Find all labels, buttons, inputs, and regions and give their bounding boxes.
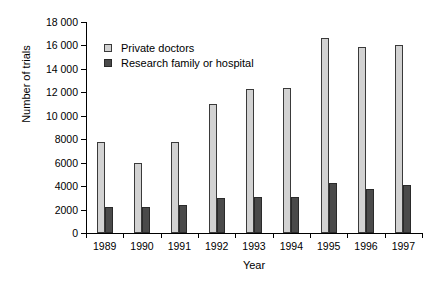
x-tick-mark xyxy=(385,233,386,238)
y-tick-mark xyxy=(81,186,86,187)
x-tick-mark xyxy=(161,233,162,238)
bar xyxy=(179,205,187,233)
y-tick-label: 16 000 xyxy=(24,40,78,51)
y-tick-label: 2000 xyxy=(24,205,78,216)
x-tick-mark xyxy=(310,233,311,238)
y-tick-label: 14 000 xyxy=(24,64,78,75)
x-axis-title: Year xyxy=(86,259,422,271)
x-tick-mark xyxy=(422,233,423,238)
bar xyxy=(134,163,142,233)
x-tick-mark xyxy=(86,233,87,238)
y-tick-label: 6000 xyxy=(24,158,78,169)
x-tick-label: 1997 xyxy=(380,241,426,252)
bar xyxy=(97,142,105,233)
bar xyxy=(291,197,299,233)
y-tick-label: 12 000 xyxy=(24,87,78,98)
bar xyxy=(171,142,179,233)
chart-figure: Number of trials 0200040006000800010 000… xyxy=(0,0,445,285)
bar xyxy=(283,88,291,233)
bar xyxy=(403,185,411,233)
y-tick-mark xyxy=(81,45,86,46)
bar xyxy=(209,104,217,233)
y-tick-mark xyxy=(81,139,86,140)
x-tick-mark xyxy=(235,233,236,238)
chart-legend: Private doctorsResearch family or hospit… xyxy=(104,40,254,70)
x-tick-mark xyxy=(123,233,124,238)
bar xyxy=(142,207,150,233)
x-tick-mark xyxy=(273,233,274,238)
bar xyxy=(329,183,337,233)
y-tick-mark xyxy=(81,69,86,70)
y-tick-mark xyxy=(81,116,86,117)
bar xyxy=(366,189,374,233)
y-tick-label: 4000 xyxy=(24,181,78,192)
bar xyxy=(395,45,403,233)
legend-label: Research family or hospital xyxy=(121,57,254,69)
y-tick-label: 18 000 xyxy=(24,17,78,28)
legend-label: Private doctors xyxy=(121,42,194,54)
legend-swatch xyxy=(104,44,112,52)
y-axis-title: Number of trials xyxy=(20,14,32,154)
y-tick-label: 8000 xyxy=(24,134,78,145)
bar xyxy=(217,198,225,233)
y-tick-mark xyxy=(81,22,86,23)
legend-item: Private doctors xyxy=(104,40,254,55)
y-axis-line xyxy=(86,22,87,233)
bar xyxy=(105,207,113,233)
y-tick-label: 10 000 xyxy=(24,111,78,122)
x-axis-line xyxy=(86,233,422,234)
y-tick-label: 0 xyxy=(24,228,78,239)
legend-item: Research family or hospital xyxy=(104,55,254,70)
bar xyxy=(321,38,329,233)
bar xyxy=(358,47,366,233)
x-tick-mark xyxy=(198,233,199,238)
x-tick-mark xyxy=(347,233,348,238)
legend-swatch xyxy=(104,59,112,67)
y-tick-mark xyxy=(81,210,86,211)
bar xyxy=(246,89,254,233)
y-tick-mark xyxy=(81,163,86,164)
y-tick-mark xyxy=(81,92,86,93)
bar xyxy=(254,197,262,233)
